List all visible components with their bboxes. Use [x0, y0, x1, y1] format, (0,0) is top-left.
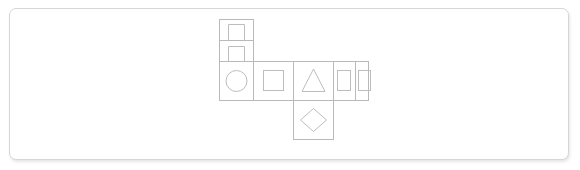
cube-net-diagram: Cube net	[0, 0, 580, 170]
cube-net-svg	[0, 0, 580, 170]
rectangle-open-bottom-icon	[229, 25, 245, 41]
net-cell-mid-1	[220, 62, 254, 101]
triangle-icon	[302, 69, 325, 92]
diamond-icon	[301, 109, 327, 132]
rectangle-icon	[338, 71, 351, 91]
net-cell-mid-3	[294, 62, 334, 101]
app-root: Cube net	[0, 0, 580, 170]
net-cell-mid-2	[254, 62, 294, 101]
square-icon	[264, 71, 284, 91]
rectangle-open-bottom-icon	[229, 47, 245, 62]
net-cell-top-2	[220, 41, 254, 62]
circle-icon	[226, 71, 247, 92]
net-cell-mid-5	[356, 62, 369, 101]
net-cell-top-1	[220, 20, 254, 41]
net-cell-bottom-1	[294, 101, 334, 140]
net-cell-mid-4	[334, 62, 356, 101]
